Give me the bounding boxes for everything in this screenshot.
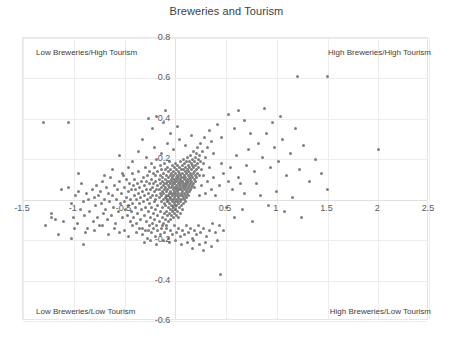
data-point: [109, 176, 112, 179]
data-point: [156, 170, 159, 173]
data-point: [200, 184, 203, 187]
data-point: [326, 75, 329, 78]
data-point: [72, 216, 75, 219]
data-point: [298, 168, 301, 171]
data-point: [103, 198, 106, 201]
data-point: [70, 237, 73, 240]
data-point: [251, 220, 254, 223]
data-point: [169, 229, 172, 232]
data-point: [88, 210, 91, 213]
data-point: [216, 239, 219, 242]
data-point: [222, 172, 225, 175]
y-tick-label: 0.2: [148, 153, 170, 163]
data-point: [179, 212, 182, 215]
data-point: [243, 192, 246, 195]
data-point: [214, 231, 217, 234]
data-point: [60, 188, 63, 191]
data-point: [174, 239, 177, 242]
data-point: [210, 140, 213, 143]
data-point: [139, 218, 142, 221]
data-point: [106, 218, 109, 221]
data-point: [151, 186, 154, 189]
data-point: [283, 210, 286, 213]
data-point: [116, 188, 119, 191]
data-point: [54, 218, 57, 221]
data-point: [138, 186, 141, 189]
data-point: [100, 202, 103, 205]
data-point: [227, 113, 230, 116]
data-point: [257, 142, 260, 145]
data-point: [80, 182, 83, 185]
data-point: [128, 182, 131, 185]
data-point: [199, 142, 202, 145]
data-point: [74, 194, 77, 197]
data-point: [219, 273, 222, 276]
data-point: [144, 206, 147, 209]
data-point: [177, 216, 180, 219]
data-point: [203, 136, 206, 139]
data-point: [271, 121, 274, 124]
data-point: [67, 121, 70, 124]
data-point: [180, 243, 183, 246]
data-point: [150, 206, 153, 209]
data-point: [220, 136, 223, 139]
data-point: [105, 186, 108, 189]
x-tick-label: -1: [69, 203, 77, 213]
x-tick-label: 1.5: [320, 203, 333, 213]
data-point: [82, 200, 85, 203]
data-point: [154, 174, 157, 177]
data-point: [163, 231, 166, 234]
data-point: [164, 109, 167, 112]
data-point: [107, 233, 110, 236]
data-point: [137, 192, 140, 195]
data-point: [281, 138, 284, 141]
data-point: [121, 172, 124, 175]
data-point: [277, 160, 280, 163]
data-point: [92, 220, 95, 223]
data-point: [289, 152, 292, 155]
data-point: [139, 196, 142, 199]
data-point: [118, 180, 121, 183]
data-point: [125, 178, 128, 181]
data-point: [129, 220, 132, 223]
data-point: [192, 239, 195, 242]
data-point: [152, 227, 155, 230]
data-point: [181, 208, 184, 211]
data-point: [150, 231, 153, 234]
data-point: [146, 174, 149, 177]
data-point: [144, 166, 147, 169]
data-point: [243, 119, 246, 122]
data-point: [206, 146, 209, 149]
y-tick-label: 0.8: [148, 32, 170, 42]
data-point: [314, 158, 317, 161]
data-point: [142, 200, 145, 203]
data-point: [177, 227, 180, 230]
data-point: [131, 224, 134, 227]
data-point: [67, 186, 70, 189]
data-point: [113, 184, 116, 187]
data-point: [153, 218, 156, 221]
y-tick-label: 0.6: [148, 72, 170, 82]
data-point: [187, 194, 190, 197]
data-point: [220, 162, 223, 165]
data-point: [202, 174, 205, 177]
data-point: [181, 229, 184, 232]
data-point: [198, 174, 201, 177]
data-point: [212, 152, 215, 155]
data-point: [96, 216, 99, 219]
annotation-high-breweries-low-tourism: High Breweries/Low Tourism: [330, 307, 431, 316]
data-point: [140, 208, 143, 211]
data-point: [156, 204, 159, 207]
data-point: [204, 241, 207, 244]
data-point: [231, 188, 234, 191]
data-point: [134, 188, 137, 191]
data-point: [141, 138, 144, 141]
data-point: [114, 222, 117, 225]
data-point: [210, 188, 213, 191]
x-tick-label: 0: [172, 203, 177, 213]
data-point: [186, 241, 189, 244]
data-point: [135, 198, 138, 201]
data-point: [87, 198, 90, 201]
data-point: [104, 208, 107, 211]
data-point: [308, 180, 311, 183]
